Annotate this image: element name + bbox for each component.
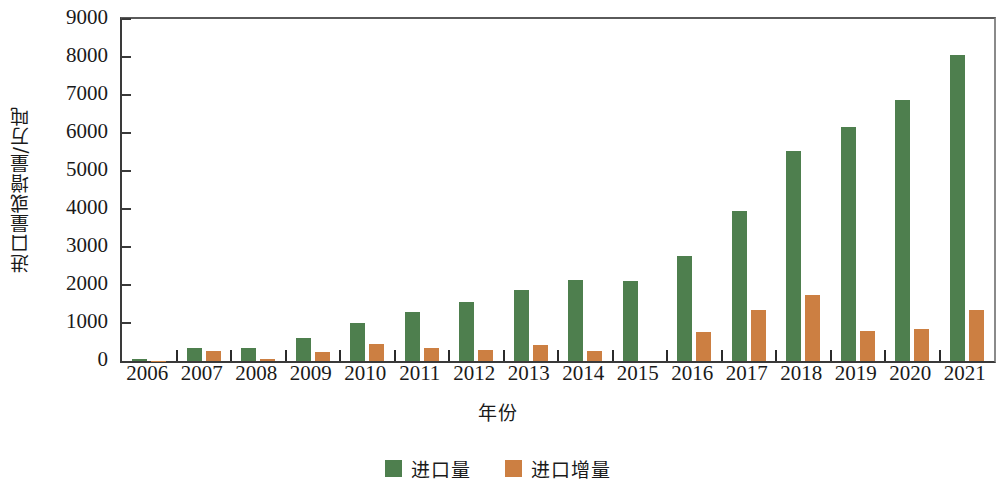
bar-import-volume: [568, 280, 583, 361]
y-axis-tick-label: 6000: [66, 121, 108, 142]
x-axis-tick-label: 2017: [726, 363, 768, 384]
y-axis-tick-label: 7000: [66, 83, 108, 104]
bar-import-increment: [478, 350, 493, 361]
y-axis-tick-label: 0: [98, 349, 109, 370]
bar-import-increment: [533, 345, 548, 361]
bar-import-volume: [405, 312, 420, 361]
x-axis-tick-label: 2010: [344, 363, 386, 384]
y-axis-title: 进口量或增量/万吨: [2, 20, 36, 360]
legend-swatch-icon: [505, 460, 522, 477]
x-axis-tick-label: 2019: [835, 363, 877, 384]
legend-label: 进口增量: [531, 455, 611, 482]
bar-import-increment: [587, 351, 602, 361]
bar-group: [558, 19, 613, 361]
x-axis-tick-label: 2021: [944, 363, 986, 384]
bar-import-volume: [841, 127, 856, 361]
y-axis-title-text: 进口量或增量/万吨: [6, 106, 33, 273]
bar-chart-figure: 进口量或增量/万吨 010002000300040005000600070008…: [0, 0, 996, 485]
bar-import-volume: [677, 256, 692, 361]
legend-label: 进口量: [411, 455, 471, 482]
bar-group: [940, 19, 995, 361]
bar-import-increment: [696, 332, 711, 361]
bar-group: [885, 19, 940, 361]
bar-group: [613, 19, 668, 361]
bar-group: [340, 19, 395, 361]
bar-group: [286, 19, 341, 361]
bar-group: [449, 19, 504, 361]
x-axis-tick-label: 2007: [181, 363, 223, 384]
x-axis-tick-label: 2020: [889, 363, 931, 384]
x-axis-tick-label: 2014: [562, 363, 604, 384]
bar-import-volume: [514, 290, 529, 361]
bar-import-increment: [315, 352, 330, 362]
x-axis-tick-label: 2018: [780, 363, 822, 384]
bar-group: [395, 19, 450, 361]
bar-import-increment: [751, 310, 766, 361]
x-axis-tick-label: 2015: [617, 363, 659, 384]
bar-import-increment: [860, 331, 875, 361]
bar-import-volume: [187, 348, 202, 361]
x-axis-tick-label: 2011: [399, 363, 440, 384]
bar-import-volume: [241, 348, 256, 361]
plot-area: [120, 17, 996, 363]
bar-import-volume: [895, 100, 910, 361]
bar-import-volume: [350, 323, 365, 361]
x-axis-tick-labels: 2006200720082009201020112012201320142015…: [120, 363, 992, 393]
bar-group: [177, 19, 232, 361]
bar-group: [831, 19, 886, 361]
y-axis-tick-label: 1000: [66, 311, 108, 332]
bar-group: [122, 19, 177, 361]
bar-import-increment: [914, 329, 929, 361]
y-axis-tick-label: 4000: [66, 197, 108, 218]
x-axis-tick-label: 2008: [235, 363, 277, 384]
plot-inner: [122, 19, 994, 361]
x-axis-tick-label: 2012: [453, 363, 495, 384]
legend-entry: 进口量: [385, 455, 471, 482]
y-axis-tick-label: 3000: [66, 235, 108, 256]
bar-import-increment: [969, 310, 984, 361]
bar-import-increment: [424, 348, 439, 361]
y-axis-tick-label: 9000: [66, 7, 108, 28]
bar-import-increment: [805, 295, 820, 361]
bar-group: [722, 19, 777, 361]
bar-import-increment: [369, 344, 384, 361]
legend-entry: 进口增量: [505, 455, 611, 482]
chart-legend: 进口量进口增量: [0, 455, 996, 482]
bar-import-volume: [950, 55, 965, 361]
x-axis-tick-label: 2006: [126, 363, 168, 384]
bar-import-volume: [786, 151, 801, 361]
y-axis-tick-label: 8000: [66, 45, 108, 66]
bar-import-volume: [296, 338, 311, 361]
bar-group: [667, 19, 722, 361]
legend-swatch-icon: [385, 460, 402, 477]
bar-import-volume: [459, 302, 474, 361]
bar-import-increment: [206, 351, 221, 361]
x-axis-tick-label: 2009: [290, 363, 332, 384]
x-axis-title: 年份: [0, 398, 996, 425]
y-axis-tick-label: 2000: [66, 273, 108, 294]
bar-group: [231, 19, 286, 361]
bar-import-volume: [732, 211, 747, 361]
x-axis-tick-label: 2013: [508, 363, 550, 384]
y-axis-tick-label: 5000: [66, 159, 108, 180]
bar-import-volume: [623, 281, 638, 361]
bar-group: [504, 19, 559, 361]
bar-group: [776, 19, 831, 361]
x-axis-tick-label: 2016: [671, 363, 713, 384]
